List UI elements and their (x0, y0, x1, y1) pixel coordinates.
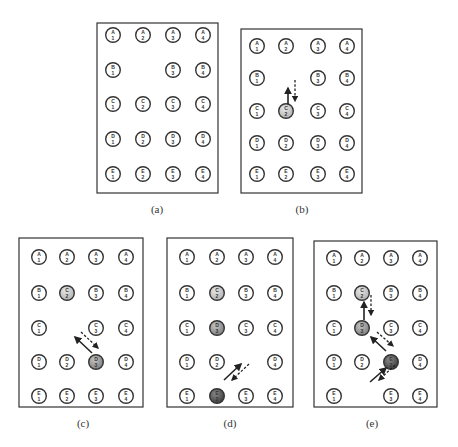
node-number: 4 (125, 396, 128, 402)
node-e1: E1 (106, 167, 121, 182)
node-number: 1 (186, 396, 189, 402)
node-number: 1 (186, 257, 189, 263)
node-number: 2 (285, 111, 288, 117)
node-number: 4 (274, 257, 277, 263)
diagram-canvas: A1A2A3A4B1B3B4C1C2C3C4D1D2D3D4E1E2E3E4A1… (0, 0, 458, 447)
node-number: 3 (172, 174, 175, 180)
node-e2: E2 (210, 389, 225, 404)
node-number: 4 (274, 362, 277, 368)
node-number: 2 (216, 293, 219, 299)
node-e3: E3 (384, 389, 399, 404)
node-number: 3 (317, 78, 320, 84)
dashed-arrow-icon (232, 364, 249, 380)
node-e4: E4 (340, 167, 355, 182)
solid-arrow-icon (75, 337, 92, 353)
node-e1: E1 (32, 389, 47, 404)
node-e4: E4 (196, 167, 211, 182)
node-a3: A3 (239, 250, 254, 265)
node-number: 1 (256, 78, 259, 84)
node-a3: A3 (166, 28, 181, 43)
node-number: 3 (95, 328, 98, 334)
node-e1: E1 (180, 389, 195, 404)
node-a4: A4 (196, 28, 211, 43)
node-number: 1 (333, 328, 336, 334)
node-number: 3 (245, 293, 248, 299)
node-a1: A1 (250, 39, 265, 54)
node-number: 4 (125, 362, 128, 368)
node-number: 4 (125, 328, 128, 334)
node-b3: B3 (311, 71, 326, 86)
node-e4: E4 (119, 389, 134, 404)
node-c3: C3 (311, 104, 326, 119)
node-b4: B4 (268, 286, 283, 301)
node-number: 2 (66, 396, 69, 402)
node-number: 4 (125, 293, 128, 299)
node-number: 1 (38, 396, 41, 402)
node-number: 4 (346, 174, 349, 180)
node-d4: D4 (196, 132, 211, 147)
node-number: 4 (346, 143, 349, 149)
node-d4: D4 (340, 136, 355, 151)
caption-d: (d) (224, 417, 237, 429)
node-b1: B1 (327, 286, 342, 301)
node-e3: E3 (166, 167, 181, 182)
panel-e: A1A2A3A4B1C2B3B4C1D3C3C4D1D2E2D4E1E3E4 (314, 241, 437, 407)
node-a3: A3 (89, 250, 104, 265)
node-a4: A4 (119, 250, 134, 265)
node-b1: B1 (180, 286, 195, 301)
node-c3: C3 (89, 321, 104, 336)
node-number: 3 (172, 35, 175, 41)
node-number: 4 (346, 78, 349, 84)
node-number: 4 (202, 174, 205, 180)
node-d1: D1 (32, 355, 47, 370)
node-a4: A4 (413, 251, 428, 266)
node-number: 2 (216, 396, 219, 402)
node-a1: A1 (32, 250, 47, 265)
node-e3: E3 (239, 389, 254, 404)
node-e1: E1 (250, 167, 265, 182)
node-number: 2 (66, 362, 69, 368)
node-c2: D3 (210, 321, 225, 336)
node-b1: B1 (106, 63, 121, 78)
node-number: 2 (142, 104, 145, 110)
panel-c: A1A2A3A4B1C2B3B4C1C3C4D1D2D3D4E1E2E3E4 (19, 238, 143, 407)
node-number: 4 (274, 396, 277, 402)
node-a3: A3 (311, 39, 326, 54)
node-number: 1 (112, 104, 115, 110)
node-number: 2 (285, 46, 288, 52)
caption-b: (b) (296, 203, 309, 215)
node-number: 3 (245, 257, 248, 263)
node-number: 3 (390, 328, 393, 334)
node-a1: A1 (180, 250, 195, 265)
node-b2: C2 (355, 286, 370, 301)
node-d4: D4 (119, 355, 134, 370)
node-number: 1 (186, 293, 189, 299)
node-d1: D1 (250, 136, 265, 151)
node-c2: D3 (355, 321, 370, 336)
node-b1: B1 (250, 71, 265, 86)
node-number: 4 (346, 111, 349, 117)
node-c4: C4 (413, 321, 428, 336)
node-number: 4 (202, 35, 205, 41)
node-a2: A2 (355, 251, 370, 266)
node-d2: D2 (136, 132, 151, 147)
node-number: 3 (390, 396, 393, 402)
node-number: 2 (361, 362, 364, 368)
node-c4: C4 (268, 321, 283, 336)
node-number: 2 (216, 257, 219, 263)
node-number: 2 (142, 174, 145, 180)
node-a4: A4 (340, 39, 355, 54)
node-c1: C1 (32, 321, 47, 336)
node-c4: C4 (196, 97, 211, 112)
node-number: 1 (112, 70, 115, 76)
node-number: 1 (256, 111, 259, 117)
node-number: 2 (361, 293, 364, 299)
node-d3: D3 (311, 136, 326, 151)
node-number: 1 (38, 293, 41, 299)
caption-a: (a) (151, 203, 163, 215)
node-c3: C3 (384, 321, 399, 336)
node-number: 1 (256, 174, 259, 180)
node-number: 4 (202, 104, 205, 110)
node-number: 4 (346, 46, 349, 52)
node-d3: D3 (166, 132, 181, 147)
